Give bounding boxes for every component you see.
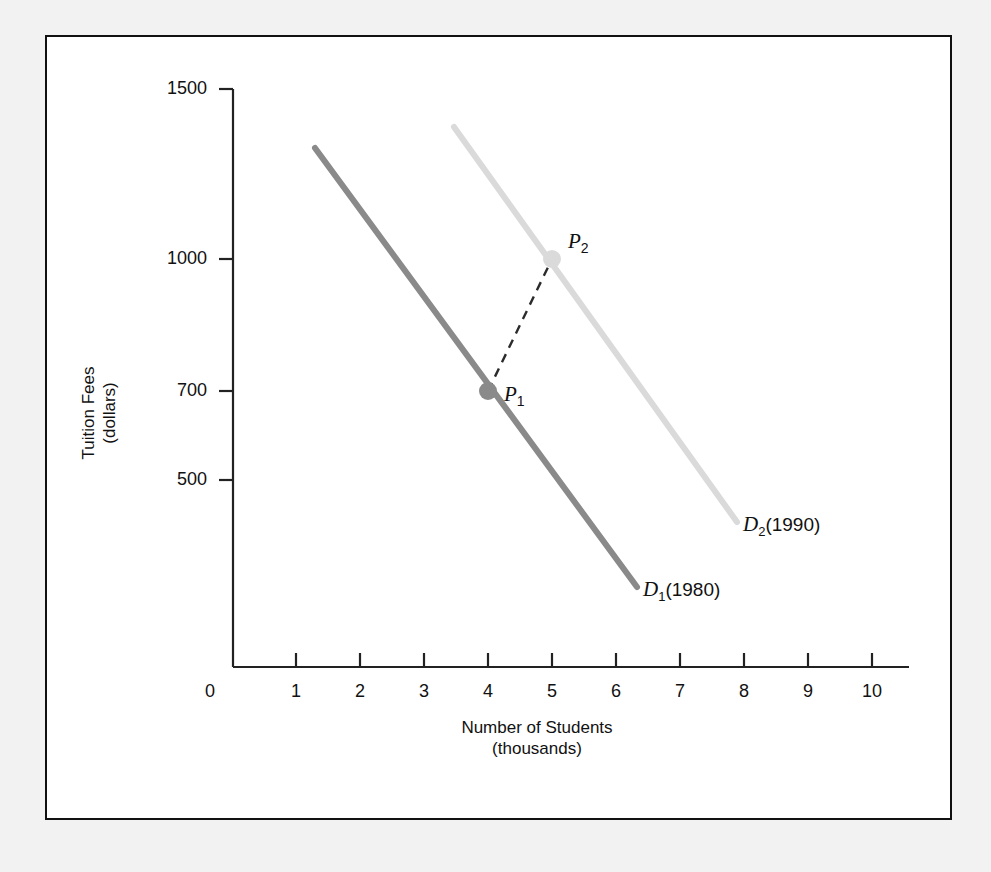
point-p2 <box>543 250 561 268</box>
y-tick-label-700: 700 <box>137 380 207 401</box>
curve-label-d2-suffix: (1990) <box>765 514 820 535</box>
curve-label-d1-suffix: (1980) <box>665 579 720 600</box>
shift-connector <box>488 259 552 391</box>
x-tick-label-6: 6 <box>596 681 636 702</box>
x-tick-label-0: 0 <box>190 681 230 702</box>
y-axis-title-unit: (dollars) <box>100 382 119 443</box>
demand-curve-d1 <box>315 148 637 587</box>
page-background: 1500 1000 700 500 0 1 2 3 4 5 6 7 8 9 10… <box>0 0 991 872</box>
x-tick-label-10: 10 <box>852 681 892 702</box>
demand-curve-d2 <box>454 127 737 522</box>
curve-label-d1-symbol: D <box>643 577 658 601</box>
y-tick-label-1000: 1000 <box>137 248 207 269</box>
x-tick-label-7: 7 <box>660 681 700 702</box>
point-label-p1: P1 <box>504 382 525 409</box>
x-axis-title-unit: (thousands) <box>492 739 582 758</box>
point-label-p1-symbol: P <box>504 382 517 406</box>
x-tick-label-4: 4 <box>468 681 508 702</box>
x-axis-title: Number of Students (thousands) <box>377 717 697 759</box>
y-tick-label-1500: 1500 <box>137 78 207 99</box>
x-tick-label-2: 2 <box>340 681 380 702</box>
curve-label-d1: D1(1980) <box>643 577 720 604</box>
x-tick-label-9: 9 <box>788 681 828 702</box>
point-p1 <box>479 382 497 400</box>
point-label-p1-subscript: 1 <box>517 393 525 409</box>
point-label-p2-symbol: P <box>568 229 581 253</box>
x-tick-label-1: 1 <box>276 681 316 702</box>
curve-label-d2: D2(1990) <box>743 512 820 539</box>
scan-artifact <box>236 0 296 8</box>
x-tick-label-8: 8 <box>724 681 764 702</box>
y-axis-title: Tuition Fees (dollars) <box>78 313 120 513</box>
x-tick-label-3: 3 <box>404 681 444 702</box>
figure-frame: 1500 1000 700 500 0 1 2 3 4 5 6 7 8 9 10… <box>45 35 952 820</box>
point-label-p2: P2 <box>568 229 589 256</box>
x-tick-label-5: 5 <box>532 681 572 702</box>
y-tick-label-500: 500 <box>137 469 207 490</box>
x-axis-title-main: Number of Students <box>461 718 612 737</box>
curve-label-d2-symbol: D <box>743 512 758 536</box>
y-axis-title-main: Tuition Fees <box>79 367 98 460</box>
point-label-p2-subscript: 2 <box>581 240 589 256</box>
